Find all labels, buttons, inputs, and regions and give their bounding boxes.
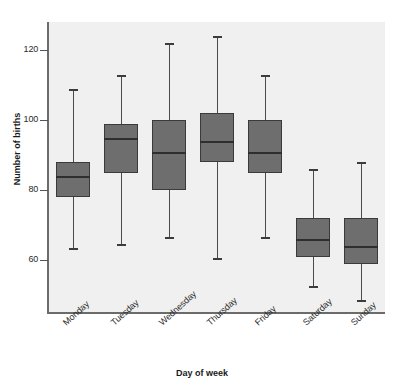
whisker-cap-upper <box>309 169 318 171</box>
box-plot-figure: 6080100120 MondayTuesdayWednesdayThursda… <box>0 0 404 383</box>
y-tick-mark <box>40 120 48 121</box>
whisker-lower <box>73 197 74 250</box>
median-line <box>344 246 378 248</box>
whisker-upper <box>169 43 170 120</box>
whisker-upper <box>313 169 314 218</box>
whisker-cap-lower <box>261 237 270 239</box>
whisker-lower <box>361 264 362 303</box>
y-tick-mark <box>40 260 48 261</box>
median-line <box>200 141 234 143</box>
whisker-upper <box>361 162 362 218</box>
median-line <box>296 239 330 241</box>
whisker-lower <box>169 190 170 239</box>
y-axis-title: Number of births <box>12 99 22 199</box>
whisker-cap-lower <box>69 248 78 250</box>
y-tick-mark <box>40 50 48 51</box>
whisker-lower <box>265 173 266 240</box>
whisker-cap-upper <box>165 43 174 45</box>
whisker-cap-upper <box>117 75 126 77</box>
whisker-cap-lower <box>213 258 222 260</box>
whisker-lower <box>217 162 218 260</box>
whisker-lower <box>313 257 314 289</box>
whisker-upper <box>217 36 218 113</box>
box-plot-item <box>296 0 330 291</box>
median-line <box>104 138 138 140</box>
y-tick-label-wrap: 60 <box>0 254 38 266</box>
box-plot-item <box>344 0 378 291</box>
box-iqr-rect <box>104 124 138 173</box>
y-axis-line <box>47 22 49 313</box>
y-tick-mark <box>40 190 48 191</box>
box-iqr-rect <box>200 113 234 162</box>
whisker-cap-upper <box>357 162 366 164</box>
box-iqr-rect <box>296 218 330 257</box>
whisker-upper <box>73 89 74 163</box>
whisker-cap-lower <box>309 286 318 288</box>
box-iqr-rect <box>152 120 186 190</box>
y-tick-label: 120 <box>12 44 38 54</box>
whisker-cap-lower <box>117 244 126 246</box>
box-iqr-rect <box>56 162 90 197</box>
y-tick-label: 60 <box>12 254 38 264</box>
median-line <box>56 176 90 178</box>
box-plot-item <box>104 0 138 291</box>
box-plot-item <box>152 0 186 291</box>
whisker-lower <box>121 173 122 247</box>
box-plot-item <box>248 0 282 291</box>
box-plot-item <box>56 0 90 291</box>
median-line <box>248 152 282 154</box>
box-plot-item <box>200 0 234 291</box>
whisker-cap-upper <box>69 89 78 91</box>
whisker-cap-upper <box>213 36 222 38</box>
whisker-cap-upper <box>261 75 270 77</box>
box-iqr-rect <box>248 120 282 173</box>
x-axis-title: Day of week <box>0 368 404 378</box>
whisker-cap-lower <box>357 300 366 302</box>
median-line <box>152 152 186 154</box>
whisker-upper <box>265 75 266 121</box>
whisker-cap-lower <box>165 237 174 239</box>
whisker-upper <box>121 75 122 124</box>
y-tick-label-wrap: 120 <box>0 44 38 56</box>
box-iqr-rect <box>344 218 378 264</box>
